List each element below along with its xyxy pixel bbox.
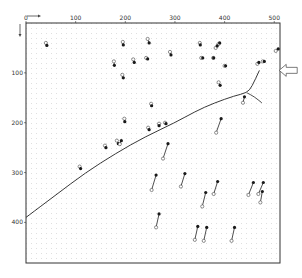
- filled-marker-icon: [113, 64, 116, 67]
- filled-marker-icon: [169, 53, 172, 56]
- vector-marker-pair: [157, 122, 160, 127]
- y-tick-label: 400: [12, 218, 24, 225]
- open-marker-icon: [202, 239, 205, 242]
- x-arrowhead-icon: [38, 15, 41, 18]
- open-marker-icon: [230, 239, 233, 242]
- filled-marker-icon: [133, 61, 136, 64]
- x-tick-label: 0: [24, 14, 28, 21]
- vector-marker-pair: [223, 64, 227, 67]
- open-marker-icon: [193, 238, 196, 241]
- loading-arrow-indicator: [279, 64, 297, 76]
- filled-marker-icon: [263, 60, 266, 63]
- filled-marker-icon: [45, 44, 48, 47]
- filled-marker-icon: [261, 190, 264, 193]
- x-tick-label: 100: [70, 14, 82, 21]
- open-marker-icon: [168, 50, 171, 53]
- filled-marker-icon: [220, 117, 223, 120]
- open-marker-icon: [257, 192, 260, 195]
- filled-marker-icon: [224, 64, 227, 67]
- open-marker-icon: [241, 101, 244, 104]
- filled-marker-icon: [243, 95, 246, 98]
- x-tick-label: 400: [219, 14, 231, 21]
- filled-marker-icon: [183, 172, 186, 175]
- filled-marker-icon: [219, 84, 222, 87]
- filled-marker-icon: [252, 181, 255, 184]
- open-marker-icon: [150, 188, 153, 191]
- open-marker-icon: [247, 193, 250, 196]
- open-marker-icon: [112, 60, 115, 63]
- filled-marker-icon: [123, 120, 126, 123]
- filled-marker-icon: [122, 43, 125, 46]
- x-axis-ticks: 0100200300400500: [24, 14, 280, 23]
- filled-marker-icon: [104, 146, 107, 149]
- y-tick-label: 200: [12, 119, 24, 126]
- filled-marker-icon: [122, 76, 125, 79]
- x-tick-label: 500: [269, 14, 281, 21]
- filled-marker-icon: [204, 191, 207, 194]
- open-marker-icon: [154, 226, 157, 229]
- x-tick-label: 300: [169, 14, 181, 21]
- filled-marker-icon: [150, 104, 153, 107]
- displacement-diagram: 0100200300400500 100200300400: [0, 0, 302, 278]
- filled-marker-icon: [166, 142, 169, 145]
- filled-marker-icon: [79, 167, 82, 170]
- open-marker-icon: [274, 49, 277, 52]
- filled-marker-icon: [216, 44, 219, 47]
- filled-marker-icon: [212, 56, 215, 59]
- filled-marker-icon: [205, 226, 208, 229]
- vector-marker-pair: [200, 56, 205, 59]
- filled-marker-icon: [233, 226, 236, 229]
- filled-marker-icon: [199, 43, 202, 46]
- filled-marker-icon: [148, 128, 151, 131]
- open-marker-icon: [201, 205, 204, 208]
- filled-marker-icon: [201, 56, 204, 59]
- filled-marker-icon: [216, 180, 219, 183]
- filled-marker-icon: [262, 181, 265, 184]
- open-marker-icon: [212, 192, 215, 195]
- open-marker-icon: [121, 73, 124, 76]
- filled-marker-icon: [148, 41, 151, 44]
- open-marker-icon: [123, 117, 126, 120]
- plot-area: [26, 23, 280, 263]
- open-marker-icon: [215, 131, 218, 134]
- open-marker-icon: [179, 185, 182, 188]
- open-marker-icon: [118, 143, 121, 146]
- filled-marker-icon: [157, 212, 160, 215]
- left-arrow-icon: [279, 64, 297, 76]
- y-axis-ticks: 100200300400: [12, 69, 26, 226]
- open-marker-icon: [259, 201, 262, 204]
- open-marker-icon: [217, 81, 220, 84]
- filled-marker-icon: [257, 61, 260, 64]
- filled-marker-icon: [164, 122, 167, 125]
- grid-background: [26, 23, 280, 263]
- y-tick-label: 300: [12, 169, 24, 176]
- open-marker-icon: [132, 58, 135, 61]
- filled-marker-icon: [218, 41, 221, 44]
- y-tick-label: 100: [12, 69, 24, 76]
- open-marker-icon: [161, 157, 164, 160]
- filled-marker-icon: [196, 225, 199, 228]
- filled-marker-icon: [120, 139, 123, 142]
- filled-marker-icon: [157, 124, 160, 127]
- open-marker-icon: [146, 37, 149, 40]
- filled-marker-icon: [154, 173, 157, 176]
- vector-marker-pair: [212, 56, 216, 59]
- y-arrowhead-icon: [19, 34, 22, 37]
- x-tick-label: 200: [120, 14, 132, 21]
- filled-marker-icon: [146, 57, 149, 60]
- open-marker-icon: [115, 139, 118, 142]
- vector-marker-pair: [261, 60, 266, 63]
- open-marker-icon: [121, 40, 124, 43]
- filled-marker-icon: [277, 47, 280, 50]
